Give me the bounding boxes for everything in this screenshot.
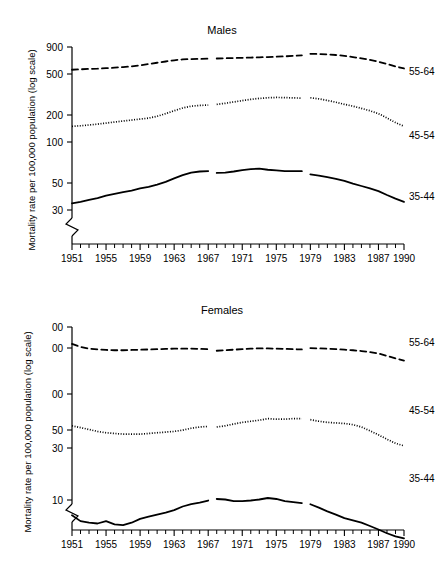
series-line-45-54	[72, 105, 208, 126]
x-tick-label: 1959	[129, 539, 152, 550]
x-tick-label: 1990	[393, 539, 416, 550]
series-line-45-54	[217, 419, 302, 427]
chart-panel-males: Males Mortality rate per 100,000 populat…	[0, 0, 444, 290]
x-tick-label: 1971	[231, 539, 254, 550]
y-tick-label: 00	[52, 343, 64, 354]
series-line-35-44	[217, 169, 302, 173]
x-tick-label: 1951	[61, 539, 84, 550]
chart-title-males: Males	[207, 24, 237, 36]
series-labels-females: 55-6445-5435-44	[409, 337, 435, 484]
x-tick-label: 1975	[265, 539, 288, 550]
x-tick-label: 1955	[95, 253, 118, 264]
series-line-35-44	[217, 498, 302, 503]
series-line-45-54	[217, 97, 302, 104]
y-tick-label: 30	[52, 443, 64, 454]
chart-svg-males: Males Mortality rate per 100,000 populat…	[0, 0, 444, 290]
figure-root: Males Mortality rate per 100,000 populat…	[0, 0, 444, 572]
x-tick-label: 1967	[197, 253, 220, 264]
x-tick-label: 1979	[299, 539, 322, 550]
x-tick-label: 1979	[299, 253, 322, 264]
x-tick-label: 1963	[163, 539, 186, 550]
x-tick-label: 1983	[333, 253, 356, 264]
series-line-55-64	[217, 55, 302, 58]
x-tick-label: 1967	[197, 539, 220, 550]
series-label-45-54: 45-54	[409, 405, 435, 416]
y-tick-label: 900	[46, 42, 63, 53]
x-tick-label: 1959	[129, 253, 152, 264]
x-tick-label: 1990	[393, 253, 416, 264]
series-line-45-54	[72, 426, 208, 434]
y-tick-label: 50	[52, 425, 64, 436]
x-tick-label: 1975	[265, 253, 288, 264]
series-line-55-64	[72, 344, 208, 350]
series-label-35-44: 35-44	[409, 191, 435, 202]
y-tick-label: 200	[46, 110, 63, 121]
y-tick-label: 30	[52, 205, 64, 216]
series-label-35-44: 35-44	[409, 473, 435, 484]
series-line-35-44	[310, 504, 404, 538]
y-tick-label: 100	[46, 137, 63, 148]
series-line-55-64	[310, 348, 404, 360]
x-tick-label: 1951	[61, 253, 84, 264]
x-tick-label: 1971	[231, 253, 254, 264]
series-label-55-64: 55-64	[409, 66, 435, 77]
y-axis-title-females: Mortality rate per 100,000 population (l…	[22, 331, 33, 532]
y-tick-label: 00	[52, 322, 64, 333]
chart-title-females: Females	[201, 304, 244, 316]
x-tick-label: 1983	[333, 539, 356, 550]
x-tick-label: 1963	[163, 253, 186, 264]
chart-panel-females: Females Mortality rate per 100,000 popul…	[0, 290, 444, 572]
series-line-35-44	[72, 501, 208, 526]
series-line-55-64	[310, 54, 404, 69]
y-axis-title-males: Mortality rate per 100,000 population (l…	[26, 49, 37, 250]
y-tick-label: 00	[52, 389, 64, 400]
x-tick-label: 1987	[367, 539, 390, 550]
series-label-45-54: 45-54	[409, 130, 435, 141]
x-ticks-males: 1951195519591963196719711975197919831987…	[61, 244, 416, 264]
x-tick-label: 1955	[95, 539, 118, 550]
chart-svg-females: Females Mortality rate per 100,000 popul…	[0, 290, 444, 572]
y-ticks-males: 9005002001005030	[46, 42, 72, 216]
series-lines-females	[72, 344, 404, 538]
y-tick-label: 50	[52, 178, 64, 189]
series-line-45-54	[310, 98, 404, 127]
y-axis-males	[66, 47, 78, 244]
y-ticks-females: 000000503010	[52, 322, 72, 506]
series-line-45-54	[310, 420, 404, 446]
series-label-55-64: 55-64	[409, 337, 435, 348]
y-tick-label: 10	[52, 495, 64, 506]
series-line-55-64	[72, 59, 208, 70]
x-tick-label: 1987	[367, 253, 390, 264]
series-line-35-44	[310, 174, 404, 201]
series-labels-males: 55-6445-5435-44	[409, 66, 435, 202]
series-line-55-64	[217, 348, 302, 350]
y-tick-label: 500	[46, 69, 63, 80]
x-ticks-females: 1951195519591963196719711975197919831987…	[61, 530, 416, 550]
series-line-35-44	[72, 171, 208, 203]
series-lines-males	[72, 54, 404, 203]
